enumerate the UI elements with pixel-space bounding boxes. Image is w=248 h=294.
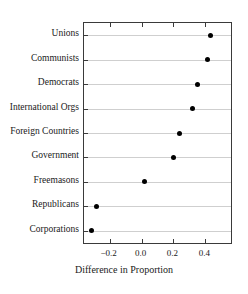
category-label: Republicans <box>0 201 79 211</box>
scatter-chart-figure: UnionsCommunistsDemocratsInternational O… <box>0 0 248 294</box>
category-label: Foreign Countries <box>0 127 79 137</box>
x-axis-tick-top <box>142 23 143 27</box>
category-label: Freemasons <box>0 176 79 186</box>
x-axis-tick <box>205 239 206 243</box>
y-axis-tick <box>84 84 88 85</box>
data-point <box>142 179 147 184</box>
gridline <box>84 206 231 207</box>
y-axis-tick <box>84 182 88 183</box>
x-axis-tick <box>142 239 143 243</box>
data-point <box>171 155 176 160</box>
x-axis-tick-top <box>173 23 174 27</box>
gridline <box>84 109 231 110</box>
gridline <box>84 231 231 232</box>
y-axis-tick <box>84 133 88 134</box>
y-axis-tick <box>84 60 88 61</box>
data-point <box>177 131 182 136</box>
x-tick-label: −0.2 <box>100 249 116 258</box>
y-axis-tick <box>84 109 88 110</box>
data-point <box>190 106 195 111</box>
gridline <box>84 84 231 85</box>
x-tick-label: 0.0 <box>135 249 146 258</box>
data-point <box>195 82 200 87</box>
x-axis-title: Difference in Proportion <box>0 265 248 275</box>
x-tick-label: 0.2 <box>167 249 178 258</box>
plot-area <box>83 22 232 244</box>
gridline <box>84 182 231 183</box>
data-point <box>89 228 94 233</box>
category-label: Unions <box>0 29 79 39</box>
data-point <box>94 204 99 209</box>
category-label: Democrats <box>0 78 79 88</box>
category-label: International Orgs <box>0 103 79 113</box>
x-axis-tick <box>110 239 111 243</box>
x-axis-tick-top <box>110 23 111 27</box>
data-point <box>208 33 213 38</box>
x-axis-tick <box>173 239 174 243</box>
data-point <box>205 57 210 62</box>
x-tick-label: 0.4 <box>199 249 210 258</box>
gridline <box>84 157 231 158</box>
x-axis-tick-top <box>205 23 206 27</box>
category-label: Corporations <box>0 225 79 235</box>
category-label: Government <box>0 152 79 162</box>
category-label: Communists <box>0 54 79 64</box>
gridline <box>84 133 231 134</box>
y-axis-tick <box>84 206 88 207</box>
y-axis-tick <box>84 157 88 158</box>
y-axis-tick <box>84 231 88 232</box>
y-axis-tick <box>84 35 88 36</box>
